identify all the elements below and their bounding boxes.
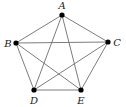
edge-BC — [16, 42, 108, 43]
vertex-D — [31, 87, 36, 92]
vertex-B — [13, 40, 18, 45]
vertex-label-D: D — [29, 95, 38, 106]
vertex-label-E: E — [76, 95, 85, 106]
graph-diagram: ABCDE — [0, 0, 126, 107]
edge-AB — [16, 15, 62, 43]
edge-AD — [34, 15, 62, 90]
vertex-label-B: B — [3, 38, 11, 49]
vertex-label-C: C — [113, 37, 121, 48]
edges — [16, 15, 108, 90]
edge-CE — [81, 42, 108, 90]
edge-AC — [62, 15, 108, 42]
vertex-A — [59, 12, 64, 17]
vertices — [13, 12, 110, 92]
vertex-C — [105, 39, 110, 44]
vertex-label-A: A — [57, 0, 65, 11]
vertex-E — [78, 87, 83, 92]
